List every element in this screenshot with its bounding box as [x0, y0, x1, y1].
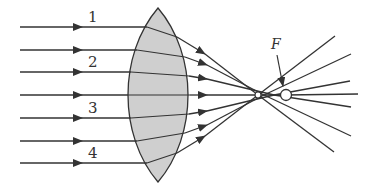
focus-pointer: [277, 55, 283, 86]
focus-point: [281, 90, 292, 101]
lens-diagram: 1 2 3 4 F: [0, 0, 383, 190]
ray-label-3: 3: [88, 99, 98, 117]
marginal-focus-point: [255, 92, 261, 98]
diverging-rays: [258, 36, 358, 152]
ray-label-2: 2: [88, 53, 98, 71]
incoming-rays: [20, 27, 147, 163]
ray-label-1: 1: [88, 8, 98, 26]
focus-label: F: [270, 36, 282, 52]
ray-label-4: 4: [88, 144, 98, 162]
diagram-canvas: 1 2 3 4 F: [0, 0, 383, 190]
refracted-rays: [177, 37, 286, 153]
